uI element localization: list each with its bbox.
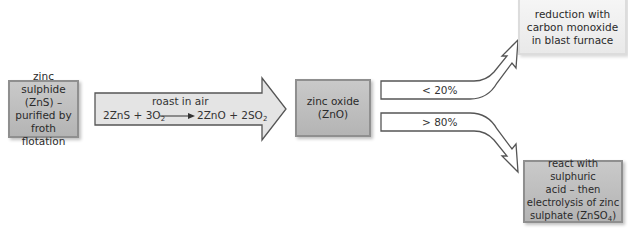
box-line: in blast furnace [527, 34, 618, 47]
box-line: froth flotation [10, 122, 77, 148]
box-line: sulphate (ZnSO4) [525, 209, 621, 226]
box-line: react with sulphuric [525, 157, 621, 183]
box-line: reduction with [527, 8, 618, 21]
box-line: acid – then [525, 183, 621, 196]
box-line: carbon monoxide [527, 21, 618, 34]
blast-furnace-box: reduction with carbon monoxide in blast … [518, 0, 627, 55]
zinc-sulphide-box: zinc sulphide (ZnS) – purified by froth … [8, 80, 79, 138]
equation-left: 2ZnS + 3O2 [103, 109, 165, 123]
upper-branch-label: < 20% [422, 84, 457, 96]
equation-right: 2ZnO + 2SO2 [197, 109, 267, 123]
box-line: zinc sulphide [10, 70, 77, 96]
zinc-oxide-box: zinc oxide (ZnO) [295, 79, 371, 137]
electrolysis-box: react with sulphuric acid – then electro… [523, 160, 623, 223]
lower-branch-label: > 80% [422, 116, 457, 128]
box-line: (ZnO) [307, 108, 360, 121]
box-line: purified by [10, 109, 77, 122]
box-line: electrolysis of zinc [525, 196, 621, 209]
roast-label: roast in air [152, 95, 208, 107]
box-line: (ZnS) – [10, 96, 77, 109]
box-line: zinc oxide [307, 95, 360, 108]
